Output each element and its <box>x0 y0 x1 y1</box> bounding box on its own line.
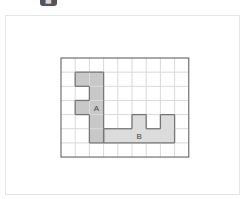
shape-a-cell <box>89 72 103 86</box>
shape-a-cell <box>75 72 89 86</box>
shape-b-cell <box>160 115 174 129</box>
shape-a-cell <box>89 115 103 129</box>
shape-b-cell <box>118 129 132 143</box>
shape-a-cell <box>75 100 89 114</box>
shape-b-cell <box>146 129 160 143</box>
shape-b-cell <box>160 129 174 143</box>
shape-a-cell <box>89 129 103 143</box>
shape-b-cell <box>104 129 118 143</box>
grid-diagram: AB <box>0 0 247 199</box>
shape-b-cell <box>132 115 146 129</box>
shape-b-label: B <box>136 132 141 141</box>
shape-a-cell <box>89 86 103 100</box>
shape-a-label: A <box>94 104 100 113</box>
